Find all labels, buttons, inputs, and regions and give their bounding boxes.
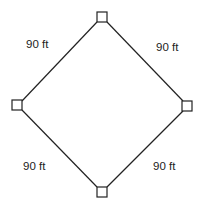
label-top-right: 90 ft <box>156 41 179 53</box>
label-bottom-right: 90 ft <box>153 160 176 172</box>
baseball-diamond-diagram: 90 ft 90 ft 90 ft 90 ft <box>0 0 199 207</box>
home-plate-square <box>97 187 107 197</box>
edge-second-to-third <box>22 22 97 101</box>
third-base-square <box>12 100 22 110</box>
edge-third-to-home <box>22 110 97 187</box>
first-base-square <box>182 101 192 111</box>
label-bottom-left: 90 ft <box>23 160 46 172</box>
label-top-left: 90 ft <box>26 38 49 50</box>
second-base-square <box>97 12 107 22</box>
edge-first-to-home <box>107 111 183 187</box>
edge-second-to-first <box>107 22 183 101</box>
